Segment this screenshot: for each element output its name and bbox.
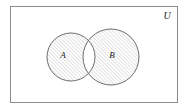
venn-diagram-canvas: A B U [0, 0, 187, 112]
shaded-region-b-only [0, 0, 187, 112]
set-b-label: B [109, 50, 115, 60]
venn-diagram-figure: A B U [0, 0, 187, 112]
set-a-label: A [59, 50, 66, 60]
universal-set-label: U [163, 10, 171, 21]
